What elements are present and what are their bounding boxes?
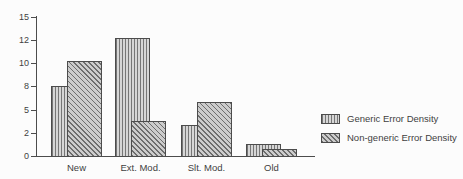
y-tick-label: 15	[7, 12, 29, 22]
x-category-label: Old	[242, 162, 302, 173]
x-category-label: New	[47, 162, 107, 173]
non-generic-bar-slt-mod	[197, 102, 232, 157]
x-category-label: Slt. Mod.	[177, 162, 237, 173]
legend: Generic Error DensityNon-generic Error D…	[321, 111, 457, 149]
y-tick-mark	[31, 110, 36, 111]
y-tick-label: 5	[7, 105, 29, 115]
legend-label: Non-generic Error Density	[347, 132, 457, 143]
y-tick-label: 10	[7, 58, 29, 68]
diagonal-hatch-swatch-icon	[321, 133, 340, 143]
legend-label: Generic Error Density	[347, 113, 438, 124]
y-tick-label: 0	[7, 151, 29, 161]
y-tick-mark	[31, 156, 36, 157]
x-category-label: Ext. Mod.	[111, 162, 171, 173]
error-density-bar-chart: 0258101215 NewExt. Mod.Slt. Mod.Old Gene…	[0, 0, 463, 179]
y-axis-line	[36, 16, 37, 156]
y-tick-label: 2	[7, 128, 29, 138]
legend-row: Generic Error Density	[321, 111, 457, 126]
y-tick-mark	[31, 40, 36, 41]
non-generic-bar-old	[262, 149, 297, 157]
vertical-hatch-swatch-icon	[321, 114, 340, 124]
y-tick-label: 12	[7, 35, 29, 45]
y-tick-mark	[31, 86, 36, 87]
non-generic-bar-new	[67, 61, 102, 157]
y-tick-mark	[31, 133, 36, 134]
y-tick-mark	[31, 63, 36, 64]
legend-row: Non-generic Error Density	[321, 130, 457, 145]
y-tick-mark	[31, 17, 36, 18]
y-tick-label: 8	[7, 81, 29, 91]
non-generic-bar-ext-mod	[131, 121, 166, 157]
